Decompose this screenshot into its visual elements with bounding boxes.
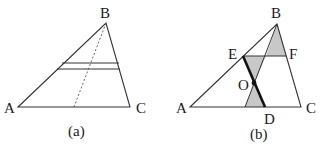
label-a-a: A xyxy=(4,100,15,116)
label-a-b: A xyxy=(176,100,187,116)
label-b-a: B xyxy=(100,5,110,21)
caption-a: (a) xyxy=(68,123,85,140)
point-o xyxy=(252,81,257,86)
label-e: E xyxy=(228,46,237,62)
geometry-figure: B A C (a) B E F O A C D (b) xyxy=(0,0,320,147)
dotted-median xyxy=(74,23,106,107)
label-b-b: B xyxy=(271,5,281,21)
label-c-b: C xyxy=(306,100,316,116)
label-c-a: C xyxy=(136,100,146,116)
label-d: D xyxy=(264,111,275,127)
triangle-abc-a xyxy=(18,23,130,107)
caption-b: (b) xyxy=(250,126,268,143)
shaded-triangle-top xyxy=(266,24,286,56)
triangle-abc-b xyxy=(190,24,301,107)
panel-b: B E F O A C D (b) xyxy=(176,5,316,143)
label-o: O xyxy=(238,77,249,93)
label-f: F xyxy=(289,46,297,62)
panel-a: B A C (a) xyxy=(4,5,146,140)
